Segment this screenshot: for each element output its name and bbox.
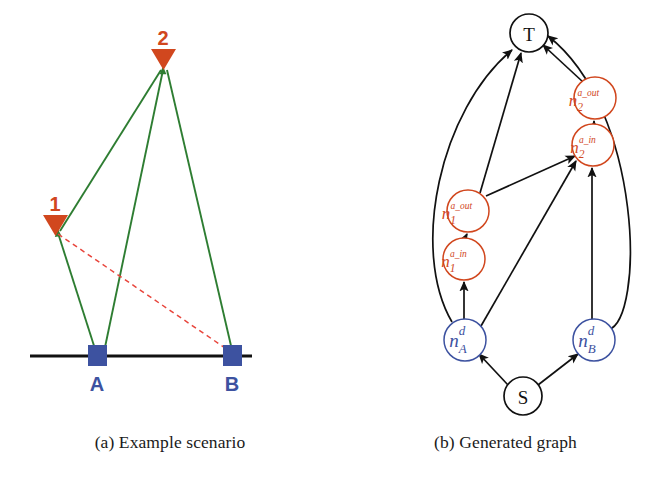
panel-generated-graph: T S n1a_in n1a_out: [340, 0, 671, 483]
node-nB-demand-sub: B: [588, 341, 596, 356]
node-nA-demand-sup: d: [459, 323, 466, 338]
node-n2-a-in-base: n: [570, 138, 579, 157]
edge-S-nB: [538, 354, 578, 385]
node-n1-a-in-sub: 1: [450, 262, 456, 274]
edge-n1out-n2in: [486, 156, 575, 196]
node-n1-a-out-sup: a_out: [451, 201, 473, 211]
node-n1-a-in-base: n: [441, 252, 450, 271]
node-S-label: S: [518, 387, 529, 408]
sensor-marker-2: [151, 49, 176, 70]
node-nA-demand-sub: A: [458, 341, 467, 356]
node-nB-demand[interactable]: nBd: [573, 319, 615, 361]
node-nA-demand[interactable]: nAd: [444, 319, 486, 361]
target-marker-B: [223, 345, 242, 366]
figure-root: A B 1 2 (a) Example scenario: [0, 0, 671, 483]
generated-graph-diagram: T S n1a_in n1a_out: [340, 0, 671, 430]
node-n2-a-out[interactable]: n2a_out: [569, 77, 616, 119]
node-n2-a-out-sub: 2: [577, 101, 583, 113]
node-n2-a-in[interactable]: n2a_in: [570, 124, 614, 166]
sensor-label-1: 1: [49, 193, 60, 215]
visibility-edges: [58, 70, 232, 352]
target-label-A: A: [90, 373, 104, 395]
node-T[interactable]: T: [510, 14, 548, 52]
edge-nA-T-curved: [433, 50, 512, 322]
target-marker-A: [88, 345, 107, 366]
edge-A-1: [58, 233, 96, 352]
example-scenario-diagram: A B 1 2: [0, 0, 340, 430]
caption-panel-a: (a) Example scenario: [0, 432, 340, 453]
node-n2-a-in-sub: 2: [579, 148, 585, 160]
edge-n1out-T: [480, 53, 521, 193]
node-nB-demand-base: n: [578, 330, 588, 351]
blocked-line-1-B: [58, 234, 231, 352]
edge-B-2: [167, 70, 232, 350]
edge-S-nA: [479, 354, 508, 385]
node-n1-a-in-sup: a_in: [450, 249, 467, 259]
caption-panel-b: (b) Generated graph: [340, 432, 671, 453]
node-n2-a-out-sup: a_out: [578, 88, 600, 98]
edge-nA-n2in: [481, 161, 576, 326]
node-nA-demand-base: n: [449, 330, 459, 351]
target-label-B: B: [225, 373, 239, 395]
node-n1-a-out[interactable]: n1a_out: [442, 190, 489, 232]
node-n1-a-out-sub: 1: [450, 214, 456, 226]
sensor-label-2: 2: [157, 27, 168, 49]
node-n2-a-in-sup: a_in: [579, 135, 596, 145]
node-S[interactable]: S: [504, 377, 542, 415]
node-T-label: T: [523, 24, 535, 45]
node-n1-a-out-base: n: [442, 204, 451, 223]
node-nB-demand-sup: d: [588, 323, 595, 338]
panel-example-scenario: A B 1 2 (a) Example scenario: [0, 0, 340, 483]
node-n2-a-out-base: n: [569, 91, 578, 110]
node-n1-a-in[interactable]: n1a_in: [441, 238, 485, 280]
